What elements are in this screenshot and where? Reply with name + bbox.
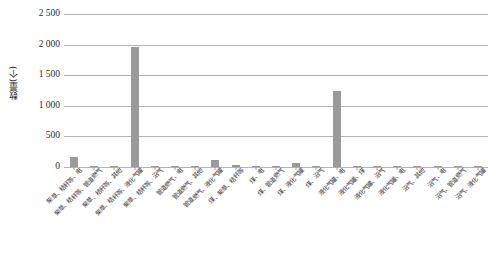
bar-slot <box>306 14 326 167</box>
y-axis-tick-labels: 05001 0001 5002 0002 500 <box>14 14 60 167</box>
bar-slot <box>326 14 346 167</box>
bar-slot <box>165 14 185 167</box>
bar <box>333 91 341 167</box>
y-axis-tick-label: 1 000 <box>16 100 60 110</box>
bar <box>70 157 78 167</box>
y-axis-tick-label: 1 500 <box>16 69 60 79</box>
bar-slot <box>246 14 266 167</box>
bars-layer <box>64 14 488 167</box>
bar-slot <box>347 14 367 167</box>
y-axis-tick-label: 2 000 <box>16 39 60 49</box>
bar-slot <box>407 14 427 167</box>
x-axis-tick-label: 煤、电 <box>247 167 264 184</box>
bar-slot <box>387 14 407 167</box>
y-axis-tick-label: 500 <box>16 130 60 140</box>
x-axis-tick-labels: 柴草、秸秆等、电柴草、秸秆等、管道燃气柴草、秸秆等、其他柴草、秸秆等、液化气罐柴… <box>64 167 488 278</box>
bar-chart: 数量(个) 05001 0001 5002 0002 500 柴草、秸秆等、电柴… <box>0 0 494 278</box>
bar-slot <box>104 14 124 167</box>
bar-slot <box>185 14 205 167</box>
bar-slot <box>286 14 306 167</box>
plot-area <box>64 14 488 167</box>
bar-slot <box>84 14 104 167</box>
bar-slot <box>64 14 84 167</box>
bar-slot <box>468 14 488 167</box>
bar-slot <box>125 14 145 167</box>
bar-slot <box>266 14 286 167</box>
y-axis-tick-label: 2 500 <box>16 8 60 18</box>
bar <box>131 47 139 167</box>
bar-slot <box>448 14 468 167</box>
y-axis-tick-label: 0 <box>16 161 60 171</box>
bar-slot <box>427 14 447 167</box>
bar-slot <box>367 14 387 167</box>
bar-slot <box>145 14 165 167</box>
bar-slot <box>205 14 225 167</box>
bar-slot <box>226 14 246 167</box>
